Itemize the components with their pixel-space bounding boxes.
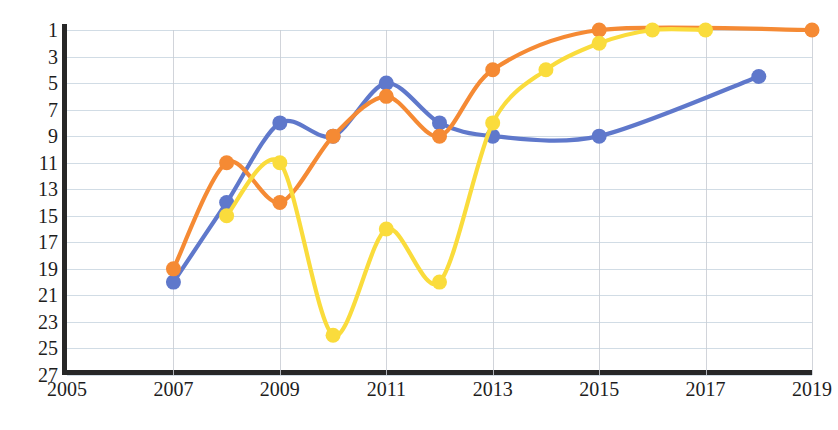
data-point [166,261,181,276]
data-point [219,155,234,170]
data-point [751,69,766,84]
series-layer [0,0,838,430]
data-point [432,129,447,144]
data-point [379,89,394,104]
series-line [173,76,758,282]
data-point [219,208,234,223]
data-point [272,155,287,170]
data-point [326,328,341,343]
data-point [272,195,287,210]
series-orange-series [166,23,820,277]
data-point [379,76,394,91]
data-point [805,23,820,38]
data-point [698,23,713,38]
data-point [538,62,553,77]
series-yellow-series [219,23,713,343]
data-point [485,115,500,130]
data-point [432,115,447,130]
data-point [592,129,607,144]
data-point [432,275,447,290]
data-point [592,36,607,51]
data-point [166,275,181,290]
data-point [592,23,607,38]
data-point [379,222,394,237]
chart-root: 13579111315171921232527 2005200720092011… [0,0,838,430]
data-point [272,115,287,130]
data-point [645,23,660,38]
data-point [326,129,341,144]
data-point [485,62,500,77]
